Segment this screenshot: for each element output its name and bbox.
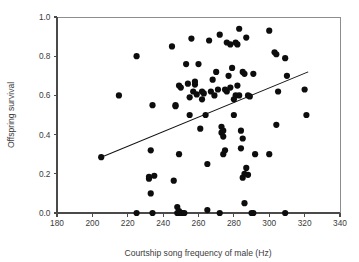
data-point [273, 122, 279, 128]
data-point [273, 51, 279, 57]
data-point [243, 165, 249, 171]
data-point [236, 92, 242, 98]
data-point [282, 55, 288, 61]
regression-line-segment [101, 72, 308, 157]
data-point [199, 96, 205, 102]
data-point [149, 210, 155, 216]
data-point [146, 174, 152, 180]
data-point [240, 135, 246, 141]
data-point [227, 84, 233, 90]
data-point [149, 102, 155, 108]
data-point [238, 145, 244, 151]
data-point [206, 37, 212, 43]
data-point [234, 83, 240, 89]
data-point [187, 112, 193, 118]
data-point [201, 90, 207, 96]
data-point [215, 86, 221, 92]
data-point [238, 128, 244, 134]
data-point [275, 88, 281, 94]
y-tick-label: 0.6 [39, 90, 51, 100]
data-point [171, 178, 177, 184]
data-point [187, 94, 193, 100]
data-point [151, 173, 157, 179]
data-point [225, 73, 231, 79]
data-point [241, 71, 247, 77]
data-point [220, 128, 226, 134]
data-point [250, 210, 256, 216]
data-point [133, 53, 139, 59]
data-point [211, 92, 217, 98]
data-point [133, 210, 139, 216]
data-point [217, 32, 223, 38]
y-tick-label: 0.4 [39, 130, 51, 140]
data-point [217, 210, 223, 216]
x-axis-ticks: 180200220240260280300320340 [50, 213, 347, 228]
data-point [188, 35, 194, 41]
data-point [181, 210, 187, 216]
data-point [303, 112, 309, 118]
data-point [222, 147, 228, 153]
y-tick-label: 0.0 [39, 208, 51, 218]
data-point [236, 26, 242, 32]
x-tick-label: 220 [121, 218, 135, 228]
data-point [183, 61, 189, 67]
data-point [229, 65, 235, 71]
data-point [192, 79, 198, 85]
x-tick-label: 340 [333, 218, 347, 228]
data-point [220, 133, 226, 139]
y-tick-label: 0.2 [39, 169, 51, 179]
data-point [245, 172, 251, 178]
y-axis-ticks: 0.00.20.40.60.81.0 [39, 12, 57, 218]
chart-canvas: 0.00.20.40.60.81.0 180200220240260280300… [0, 0, 359, 262]
data-point [172, 102, 178, 108]
y-tick-label: 0.8 [39, 51, 51, 61]
data-point [250, 71, 256, 77]
data-points [98, 26, 309, 216]
data-point [197, 126, 203, 132]
data-point [116, 92, 122, 98]
data-point [185, 81, 191, 87]
plot-frame [57, 17, 340, 213]
x-axis-title: Courtship song frequency of male (Hz) [124, 248, 271, 258]
x-tick-label: 300 [262, 218, 276, 228]
data-point [243, 34, 249, 40]
y-axis-title: Offspring survival [6, 82, 16, 148]
data-point [234, 41, 240, 47]
x-tick-label: 180 [50, 218, 64, 228]
data-point [252, 151, 258, 157]
data-point [148, 147, 154, 153]
data-point [266, 28, 272, 34]
data-point [302, 86, 308, 92]
data-point [284, 73, 290, 79]
data-point [231, 112, 237, 118]
y-tick-label: 1.0 [39, 12, 51, 22]
data-point [176, 151, 182, 157]
data-point [178, 84, 184, 90]
data-point [204, 207, 210, 213]
data-point [194, 91, 200, 97]
x-tick-label: 260 [192, 218, 206, 228]
data-point [241, 200, 247, 206]
x-tick-label: 240 [156, 218, 170, 228]
data-point [213, 69, 219, 75]
scatter-plot-figure: 0.00.20.40.60.81.0 180200220240260280300… [0, 0, 359, 262]
data-point [169, 43, 175, 49]
regression-line [101, 72, 308, 157]
data-point [210, 77, 216, 83]
data-point [227, 41, 233, 47]
x-tick-label: 320 [298, 218, 312, 228]
x-tick-label: 200 [85, 218, 99, 228]
data-point [148, 190, 154, 196]
x-tick-label: 280 [227, 218, 241, 228]
data-point [266, 151, 272, 157]
data-point [195, 61, 201, 67]
data-point [282, 210, 288, 216]
data-point [204, 161, 210, 167]
